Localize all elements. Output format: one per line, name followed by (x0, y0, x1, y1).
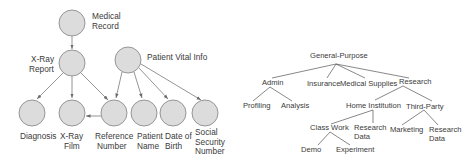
label-ssn-line1: Social (195, 127, 218, 137)
label-ssn-line3: Number (195, 146, 225, 156)
label-patient-name-line2: Name (137, 141, 160, 151)
node-medical-record (59, 10, 85, 36)
svg-text:MedicalRecord: MedicalRecord (92, 11, 121, 31)
tlabel-experiment: Experiment (336, 145, 375, 154)
label-xray-report-line2: Report (29, 64, 55, 74)
tlabel-research-data-third-line2: Data (429, 134, 446, 143)
diagram-canvas: MedicalRecord X-RayReport Patient Vital … (0, 0, 474, 166)
label-date-of-birth-line1: Date of (165, 131, 192, 141)
label-patient-vital-info: Patient Vital Info (147, 52, 208, 62)
tlabel-research: Research (399, 77, 432, 86)
tlabel-research-data-home-line2: Data (354, 132, 371, 141)
label-patient-name-line1: Patient (137, 131, 164, 141)
label-reference-number-line2: Number (97, 141, 127, 151)
svg-text:PatientName: PatientName (137, 131, 164, 151)
tedge-classwork-experiment (330, 132, 350, 145)
tlabel-third-party: Third-Party (406, 102, 444, 111)
tlabel-general-purpose: General-Purpose (310, 51, 368, 60)
label-ssn-line2: Security (195, 137, 226, 147)
tlabel-home-institution: Home Institution (346, 101, 401, 110)
tedge-third-research-data (424, 110, 438, 125)
tedge-admin-profiling (253, 87, 270, 101)
tlabel-demo: Demo (301, 145, 321, 154)
node-xray-report (59, 50, 85, 76)
tedge-gp-insurance (327, 64, 336, 78)
tedge-home-class-work (331, 110, 373, 124)
tlabel-analysis: Analysis (281, 101, 309, 110)
node-social-security-number (192, 100, 218, 126)
svg-text:ReferenceNumber: ReferenceNumber (95, 131, 134, 151)
tlabel-marketing: Marketing (390, 125, 423, 134)
node-patient-vital-info (115, 47, 141, 73)
label-medical-record-line1: Medical (92, 11, 121, 21)
tedge-admin-analysis (270, 87, 292, 101)
svg-text:SocialSecurityNumber: SocialSecurityNumber (195, 127, 226, 156)
edge-patient-vital-info-to-date-of-birth (139, 68, 168, 99)
svg-text:ResearchData: ResearchData (354, 123, 387, 141)
svg-text:X-RayReport: X-RayReport (29, 54, 55, 74)
tlabel-class-work: Class Work (310, 123, 349, 132)
node-reference-number (101, 100, 127, 126)
tedge-research-third-party (403, 86, 432, 101)
label-diagnosis: Diagnosis (20, 131, 56, 141)
node-date-of-birth (160, 100, 186, 126)
tedge-gp-research (336, 64, 409, 78)
svg-text:Date ofBirth: Date ofBirth (165, 131, 192, 151)
label-xray-film-line1: X-Ray (60, 131, 84, 141)
edge-xray-report-to-reference-number (81, 73, 108, 100)
left-diagram-labels: MedicalRecord X-RayReport Patient Vital … (20, 11, 226, 156)
tedge-gp-medical-supplies (336, 64, 365, 78)
label-medical-record-line2: Record (92, 21, 119, 31)
label-date-of-birth-line2: Birth (165, 141, 182, 151)
tedge-classwork-demo (318, 132, 330, 145)
tedge-gp-admin (272, 64, 336, 78)
tlabel-admin: Admin (262, 78, 284, 87)
edge-patient-vital-info-to-ssn (141, 64, 201, 100)
label-reference-number-line1: Reference (95, 131, 134, 141)
label-xray-film-line2: Film (64, 141, 80, 151)
node-xray-film (59, 100, 85, 126)
svg-text:X-RayFilm: X-RayFilm (60, 131, 84, 151)
tedge-research-home-institution (375, 86, 403, 100)
tedge-third-marketing (402, 110, 424, 125)
tlabel-medical-supplies: Medical Supplies (340, 79, 398, 88)
tlabel-insurance: Insurance (307, 79, 340, 88)
edge-xray-report-to-diagnosis (37, 73, 63, 99)
svg-text:ResearchData: ResearchData (429, 125, 462, 143)
node-diagnosis (19, 100, 45, 126)
tlabel-profiling: Profiling (243, 101, 270, 110)
node-patient-name (131, 100, 157, 126)
right-tree-labels: General-Purpose Admin Insurance Medical … (243, 51, 462, 154)
edge-patient-vital-info-to-reference-number (116, 72, 122, 98)
label-xray-report-line1: X-Ray (31, 54, 55, 64)
edge-patient-vital-info-to-patient-name (134, 72, 142, 98)
